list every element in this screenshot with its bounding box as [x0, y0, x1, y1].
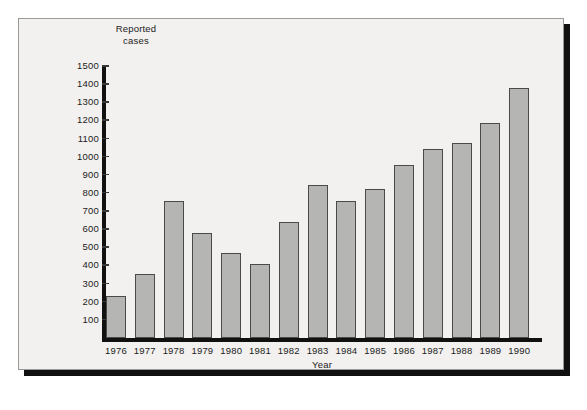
bar-1977 — [135, 274, 155, 338]
x-axis-line — [102, 338, 542, 342]
y-axis-tick-label: 1400 — [77, 78, 99, 90]
y-axis-tick: 1200 — [59, 114, 109, 126]
y-axis-tick-label: 500 — [83, 241, 99, 253]
x-axis-tick-label-1990: 1990 — [499, 345, 539, 357]
y-axis-tick: 200 — [59, 296, 109, 308]
bar-1985 — [365, 189, 385, 338]
y-axis-tick-label: 1300 — [77, 96, 99, 108]
plot-area: Reported cases 1500140013001200110010009… — [19, 19, 565, 371]
y-axis-title: Reported cases — [91, 23, 181, 47]
y-axis-tick: 1400 — [59, 78, 109, 90]
y-axis-tick: 600 — [59, 223, 109, 235]
y-axis-tick-label: 1200 — [77, 114, 99, 126]
bar-1983 — [308, 185, 328, 338]
y-axis-tick: 900 — [59, 169, 109, 181]
y-axis-tick: 500 — [59, 241, 109, 253]
y-axis-tick: 400 — [59, 259, 109, 271]
bar-1982 — [279, 222, 299, 338]
bar-1976 — [106, 296, 126, 338]
y-axis-tick: 300 — [59, 278, 109, 290]
y-axis-tick: 1500 — [59, 60, 109, 72]
bar-1979 — [192, 233, 212, 338]
chart-page: Reported cases 1500140013001200110010009… — [0, 0, 587, 410]
x-axis-title: Year — [102, 359, 542, 371]
y-axis-tick: 100 — [59, 314, 109, 326]
bar-1990 — [509, 88, 529, 338]
y-axis-tick-label: 800 — [83, 187, 99, 199]
y-axis-tick-label: 300 — [83, 278, 99, 290]
y-axis-tick: 700 — [59, 205, 109, 217]
bar-1989 — [480, 123, 500, 338]
y-axis-title-line-1: Reported — [91, 23, 181, 35]
y-axis-tick-label: 400 — [83, 259, 99, 271]
bar-1987 — [423, 149, 443, 338]
bar-1980 — [221, 253, 241, 338]
y-axis-tick-label: 700 — [83, 205, 99, 217]
y-axis-tick-label: 100 — [83, 314, 99, 326]
y-axis-tick: 1300 — [59, 96, 109, 108]
bar-1984 — [336, 201, 356, 338]
bar-1981 — [250, 264, 270, 338]
y-axis-tick-label: 900 — [83, 169, 99, 181]
y-axis-tick-label: 1000 — [77, 151, 99, 163]
y-axis-tick-label: 1500 — [77, 60, 99, 72]
bar-1988 — [452, 143, 472, 338]
bar-series — [106, 66, 542, 338]
y-axis-tick: 800 — [59, 187, 109, 199]
bar-1986 — [394, 165, 414, 338]
bar-1978 — [164, 201, 184, 338]
y-axis-tick-label: 200 — [83, 296, 99, 308]
chart-frame: Reported cases 1500140013001200110010009… — [18, 18, 564, 370]
y-axis-tick-label: 1100 — [78, 133, 99, 145]
y-axis-tick-label: 600 — [83, 223, 99, 235]
y-axis-title-line-2: cases — [91, 35, 181, 47]
y-axis-tick: 1100 — [59, 133, 109, 145]
y-axis-tick: 1000 — [59, 151, 109, 163]
